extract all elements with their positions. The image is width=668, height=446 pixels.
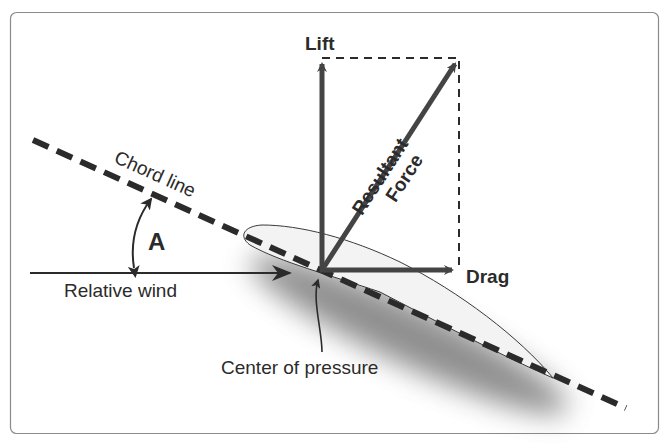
center-of-pressure-label: Center of pressure bbox=[221, 357, 378, 378]
relative-wind-label: Relative wind bbox=[64, 280, 177, 301]
lift-label: Lift bbox=[305, 33, 335, 54]
drag-label: Drag bbox=[466, 266, 509, 287]
angle-label: A bbox=[148, 228, 165, 255]
airfoil-forces-diagram: Lift Drag Resultant Force Chord line A R… bbox=[0, 0, 668, 446]
